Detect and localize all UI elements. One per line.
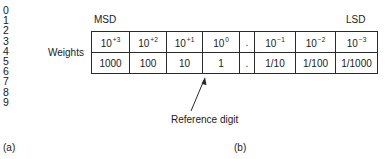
decimal-point-cell: . <box>240 53 255 74</box>
value-cell: 100 <box>130 53 167 74</box>
value-cell: 1/1000 <box>336 53 378 74</box>
lsd-label: LSD <box>346 14 365 25</box>
power-cell: 10+3 <box>92 32 130 53</box>
value-cell: 1/10 <box>255 53 296 74</box>
value-cell: 1000 <box>92 53 130 74</box>
power-cell: 10−1 <box>255 32 296 53</box>
value-cell: 1 <box>203 53 240 74</box>
digit: 7 <box>3 76 9 86</box>
values-row: 1000 100 10 1 . 1/10 1/100 1/1000 <box>92 53 378 74</box>
power-cell: 100 <box>203 32 240 53</box>
digit: 9 <box>3 97 9 107</box>
power-cell: 10+1 <box>167 32 203 53</box>
reference-arrow-icon <box>0 0 385 159</box>
decimal-point-cell: . <box>240 32 255 53</box>
reference-digit-annotation: Reference digit <box>171 114 238 125</box>
caption-a: (a) <box>3 142 15 153</box>
power-cell: 10−2 <box>296 32 336 53</box>
msd-label: MSD <box>94 14 116 25</box>
value-cell: 1/100 <box>296 53 336 74</box>
caption-b: (b) <box>234 142 246 153</box>
value-cell: 10 <box>167 53 203 74</box>
weights-row-label: Weights <box>48 47 84 58</box>
power-cell: 10−3 <box>336 32 378 53</box>
powers-row: 10+3 10+2 10+1 100 . 10−1 10−2 10−3 <box>92 32 378 53</box>
power-cell: 10+2 <box>130 32 167 53</box>
positional-weights-table: 10+3 10+2 10+1 100 . 10−1 10−2 10−3 1000… <box>91 31 378 74</box>
decimal-digit-list: 0 1 2 3 4 5 6 7 8 9 <box>3 5 9 107</box>
